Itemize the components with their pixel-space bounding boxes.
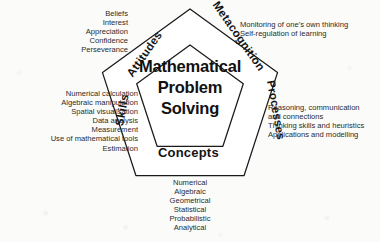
edge-label-concepts: Concepts (158, 145, 219, 160)
list-item: Applications and modelling (268, 130, 364, 139)
list-item: Analytical (0, 223, 380, 232)
list-item: Statistical (0, 205, 380, 214)
list-item: Algebraic (0, 187, 380, 196)
list-item: Algebraic manipulation (51, 98, 138, 107)
list-item: Numerical calculation (51, 89, 138, 98)
list-item: Estimation (51, 144, 138, 153)
list-item: Beliefs (81, 9, 128, 18)
centre-title-line-2: Problem (132, 77, 248, 98)
descriptor-list-metacognition: Monitoring of one's own thinking Self-re… (240, 20, 348, 38)
list-item: Use of mathematical tools (51, 134, 138, 143)
list-item: Numerical (0, 178, 380, 187)
descriptor-list-processes: Reasoning, communication and connections… (268, 103, 364, 139)
descriptor-list-attitudes: Beliefs Interest Appreciation Confidence… (81, 9, 128, 54)
list-item: Probabilistic (0, 214, 380, 223)
list-item: Self-regulation of learning (240, 29, 348, 38)
list-item: Measurement (51, 125, 138, 134)
list-item: Perseverance (81, 45, 128, 54)
centre-title-line-3: Solving (132, 98, 248, 119)
list-item: Confidence (81, 36, 128, 45)
list-item: Spatial visualisation (51, 107, 138, 116)
list-item: Thinking skills and heuristics (268, 121, 364, 130)
diagram-canvas: Mathematical Problem Solving Attitudes M… (0, 0, 380, 242)
descriptor-list-skills: Numerical calculation Algebraic manipula… (51, 89, 138, 153)
centre-title-line-1: Mathematical (132, 56, 248, 77)
list-item: Data analysis (51, 116, 138, 125)
centre-title: Mathematical Problem Solving (132, 56, 248, 119)
list-item: Monitoring of one's own thinking (240, 20, 348, 29)
descriptor-list-concepts: Numerical Algebraic Geometrical Statisti… (0, 178, 380, 233)
list-item: Appreciation (81, 27, 128, 36)
list-item: Geometrical (0, 196, 380, 205)
list-item: and connections (268, 112, 364, 121)
list-item: Reasoning, communication (268, 103, 364, 112)
list-item: Interest (81, 18, 128, 27)
